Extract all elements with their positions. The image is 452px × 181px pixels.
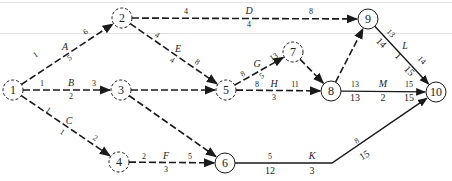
node-number: 7 [290, 45, 296, 59]
activity-time-label: 13 [385, 27, 397, 39]
activity-time-label: 14 [374, 35, 389, 50]
activity-time-label: 8 [239, 69, 247, 79]
activity-time-label: 1 [44, 105, 52, 115]
activity-time-label: 13 [351, 80, 359, 89]
event-node-9: 9 [358, 9, 378, 29]
activity-time-label: 2 [69, 92, 73, 101]
activity-time-label: 13 [350, 92, 360, 103]
node-number: 3 [118, 83, 124, 97]
activity-name-label: F [162, 150, 170, 161]
activity-time-label: 5 [188, 152, 192, 161]
activity-time-label: 5 [268, 152, 272, 161]
activity-arrow-dummy-3-6 [129, 96, 216, 157]
activity-arrow-h [236, 90, 320, 91]
activity-arrow-dummy-7-8 [300, 59, 323, 83]
activity-arrow-d [132, 18, 357, 19]
event-node-6: 6 [215, 153, 235, 173]
activity-time-label: 3 [272, 93, 276, 102]
activity-time-label: 2 [91, 133, 99, 143]
event-node-5: 5 [216, 80, 236, 100]
node-number: 1 [10, 83, 16, 97]
network-diagram: 12345678910 1A561B321C124D844E482F538G51… [0, 0, 452, 181]
activity-time-label: 6 [81, 27, 89, 37]
activity-time-label: 11 [291, 80, 299, 89]
node-number: 10 [430, 85, 442, 99]
activity-arrow-f [129, 162, 214, 163]
node-number: 9 [365, 12, 371, 26]
activity-time-label: 1 [40, 79, 44, 88]
event-node-4: 4 [109, 152, 129, 172]
activity-time-label: 8 [255, 80, 259, 89]
activity-time-label: 5 [65, 53, 73, 63]
activity-arrow-dummy-8-9 [336, 29, 363, 82]
activity-name-label: L [401, 40, 408, 51]
activity-time-label: 15 [405, 80, 413, 89]
activity-time-label: 4 [168, 55, 176, 65]
event-node-7: 7 [283, 42, 303, 62]
activity-arrow-e [130, 24, 217, 84]
activity-time-label: 4 [247, 20, 251, 29]
activity-time-label: 15 [357, 148, 371, 163]
activity-name-label: H [269, 78, 278, 89]
activity-time-label: 4 [184, 7, 188, 16]
activity-time-label: 1 [31, 50, 39, 60]
activity-time-label: 1 [58, 127, 66, 137]
activity-time-label: 3 [164, 165, 168, 174]
activity-arrow-k [235, 98, 427, 163]
event-node-1: 1 [3, 80, 23, 100]
activity-name-label: C [66, 115, 73, 126]
event-node-8: 8 [321, 81, 341, 101]
activity-name-label: G [253, 58, 260, 69]
activity-name-label: K [308, 150, 317, 161]
activity-time-label: 4 [153, 30, 161, 40]
activity-time-label: 13 [268, 51, 279, 63]
node-number: 6 [222, 156, 228, 170]
activity-name-label: B [68, 77, 74, 88]
node-number: 8 [328, 84, 334, 98]
activity-name-label: A [61, 41, 69, 52]
event-node-2: 2 [112, 8, 132, 28]
activity-time-label: 15 [402, 63, 417, 78]
activity-time-label: 3 [92, 79, 96, 88]
activity-name-label: M [378, 78, 388, 89]
activity-time-label: 8 [353, 136, 361, 146]
activity-time-label: 3 [310, 165, 315, 176]
event-node-3: 3 [111, 80, 131, 100]
node-number: 4 [116, 155, 122, 169]
activity-time-label: 8 [193, 57, 201, 67]
event-node-10: 10 [426, 82, 446, 102]
activity-name-label: E [174, 43, 181, 54]
activity-name-label: D [244, 5, 253, 16]
activity-time-label: 14 [416, 54, 428, 66]
activity-time-label: 2 [142, 152, 146, 161]
activity-time-label: 2 [381, 92, 386, 103]
activity-time-label: 15 [404, 92, 414, 103]
node-number: 2 [119, 11, 125, 25]
activity-time-label: 8 [309, 7, 313, 16]
node-number: 5 [223, 83, 229, 97]
activity-time-label: 12 [265, 165, 275, 176]
